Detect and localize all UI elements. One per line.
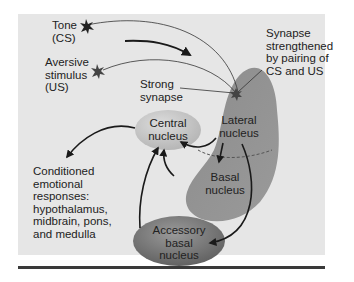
lateral-nucleus-label: Lateral nucleus: [212, 114, 266, 139]
aversive-stimulus-label: Aversive stimulus (US): [45, 56, 89, 94]
pairing-arrow: [125, 41, 190, 55]
lateral-basal-complex-shape: [186, 68, 279, 222]
strong-synapse-pointer: [180, 88, 234, 93]
accessory-basal-nucleus-label: Accessory basal nucleus: [148, 224, 210, 262]
central-to-output-arrow: [67, 126, 135, 157]
tone-cs-label: Tone (CS): [52, 19, 77, 44]
conditioned-emotional-responses-label: Conditioned emotional responses: hypotha…: [33, 165, 112, 240]
basal-nucleus-label: Basal nucleus: [198, 171, 252, 196]
basal-to-central-arrow: [164, 150, 174, 176]
synapse-strengthened-label: Synapse strengthened by pairing of CS an…: [266, 27, 333, 77]
central-nucleus-label: Central nucleus: [143, 117, 193, 142]
accessory-to-central-arrow: [140, 148, 158, 228]
strong-synapse-label: Strong synapse: [140, 78, 183, 103]
tone-star-icon: [80, 19, 94, 34]
aversive-star-icon: [91, 64, 105, 79]
bottom-divider: [18, 266, 325, 269]
